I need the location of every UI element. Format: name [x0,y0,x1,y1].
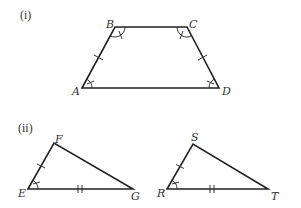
vertex-label-r: R [156,187,165,200]
vertex-label-c: C [189,18,198,31]
tick-mark-ab [94,55,103,60]
vertex-label-g: G [131,190,140,203]
vertex-label-f: F [54,133,63,146]
section-label-i: (i) [20,8,31,22]
angle-tick-d [207,81,214,84]
geometry-diagram: (i) (ii) A B C D [0,0,301,208]
angle-tick-a [87,81,94,84]
vertex-label-e: E [17,187,26,200]
triangle-efg-outline [28,143,133,189]
trapezoid-outline [82,27,219,88]
vertex-label-d: D [221,85,231,98]
angle-arc-e [33,180,38,189]
angle-arc-r [172,180,177,189]
triangle-rst: R S T [156,131,280,203]
vertex-label-t: T [271,190,280,203]
trapezoid-abcd: A B C D [71,18,231,98]
section-label-ii: (ii) [18,121,33,135]
triangle-rst-outline [167,144,268,189]
triangle-efg: E F G [17,133,140,203]
vertex-label-b: B [105,18,114,31]
vertex-label-s: S [191,131,199,144]
vertex-label-a: A [71,85,80,98]
